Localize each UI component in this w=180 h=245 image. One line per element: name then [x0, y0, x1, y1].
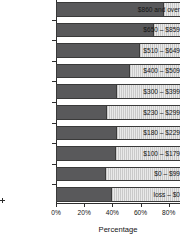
bar-segment-dark [57, 127, 116, 140]
left-margin-tick-mark-vertical [2, 198, 3, 203]
x-axis-tick-label: 80% [154, 209, 180, 217]
bar-segment-dark [57, 168, 105, 181]
y-axis-tick [52, 61, 56, 62]
bar-segment-dark [57, 106, 106, 119]
bar-segment-dark [57, 147, 115, 160]
y-axis-tick [52, 164, 56, 165]
y-axis-category-label: $300 – $399 [126, 88, 180, 95]
x-axis-tick-label: 20% [69, 209, 99, 217]
stacked-bar-chart: $860 and over$650 – $859$510 – $649$400 … [0, 0, 180, 245]
bar-segment-dark [57, 188, 111, 201]
bar-segment-dark [57, 85, 116, 98]
x-axis-tick-label: 0% [41, 209, 71, 217]
y-axis-category-label: loss – $0 [126, 191, 180, 198]
y-axis-category-label: $180 – $229 [126, 129, 180, 136]
y-axis-category-label: $510 – $649 [126, 47, 180, 54]
y-axis-tick [52, 81, 56, 82]
y-axis-category-label: $230 – $299 [126, 109, 180, 116]
y-axis-tick [52, 143, 56, 144]
x-axis-tick [169, 203, 170, 207]
x-axis-tick-label: 60% [126, 209, 156, 217]
y-axis-tick [52, 40, 56, 41]
x-axis-tick [112, 203, 113, 207]
x-axis-tick [84, 203, 85, 207]
y-axis-tick [52, 184, 56, 185]
y-axis-category-label: $100 – $179 [126, 150, 180, 157]
x-axis-tick [141, 203, 142, 207]
bar-segment-dark [57, 65, 129, 78]
x-axis-tick-label: 40% [97, 209, 127, 217]
x-axis-line [56, 203, 180, 204]
y-axis-tick [52, 102, 56, 103]
x-axis-tick [56, 203, 57, 207]
y-axis-category-label: $650 – $859 [126, 26, 180, 33]
y-axis-category-label: $860 and over [126, 6, 180, 13]
y-axis-category-label: $0 – $99 [126, 170, 180, 177]
x-axis-title: Percentage [56, 225, 180, 234]
y-axis-category-label: $400 – $509 [126, 67, 180, 74]
y-axis-tick [52, 20, 56, 21]
y-axis-tick [52, 123, 56, 124]
